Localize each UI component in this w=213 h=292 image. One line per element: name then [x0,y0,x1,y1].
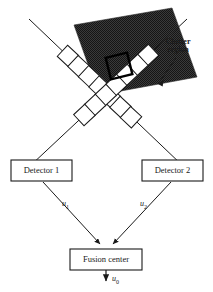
message-u1-label: u1 [62,200,69,210]
message-u0-sub: 0 [116,279,119,285]
edge-detector2-fusion [113,182,171,244]
clutter-region-label-line2: region [167,45,189,54]
message-u2-sub: 2 [144,204,147,210]
message-u1-sub: 1 [66,204,69,210]
fusion-center-label: Fusion center [70,255,142,264]
detector2-label: Detector 2 [142,166,203,175]
detection-fusion-diagram: Clutter region Detector 1 Detector 2 Fus… [0,0,213,292]
detector1-label: Detector 1 [11,166,72,175]
message-u2-label: u2 [140,200,147,210]
clutter-region-label: Clutter region [152,38,204,55]
edge-detector1-fusion [43,182,100,244]
message-u0-label: u0 [112,275,119,285]
